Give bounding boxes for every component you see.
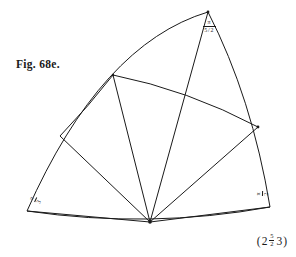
apex-fraction-numerator: π <box>207 19 210 25</box>
plate-note-fraction-numerator: 5 <box>270 233 274 240</box>
apex-denominator-denominator: 2 <box>210 27 213 33</box>
vertex-inner-right <box>257 126 260 129</box>
inner-arc <box>113 75 258 127</box>
left-corner-fraction-denominator: 3 <box>35 198 42 204</box>
figure-root: Fig. 68e. π 5 / 2 π 3 π 2 ( 2 <box>0 0 296 257</box>
plate-note-left-number: 2 <box>262 235 268 247</box>
right-corner-fraction: π 2 <box>255 191 269 196</box>
outer-arc-right <box>208 12 270 207</box>
apex-fraction-denominator: 5 / 2 <box>204 27 213 33</box>
apex-compound-fraction: π 5 / 2 <box>203 19 216 34</box>
plate-note: ( 2 5 2 3 ) <box>257 233 287 248</box>
geometric-diagram <box>0 0 296 257</box>
ray-to-right-base <box>150 207 270 222</box>
figure-caption: Fig. 68e. <box>16 58 60 70</box>
vertex-inner-left <box>112 74 114 76</box>
ray-to-inner-right <box>150 127 258 222</box>
ray-to-left-mid <box>60 136 150 222</box>
left-corner-fraction: π 3 <box>28 195 42 205</box>
apex-angle-label: π 5 / 2 <box>196 19 222 33</box>
right-corner-fraction-denominator: 2 <box>262 192 268 196</box>
vertex-fan-center <box>148 220 152 224</box>
ray-to-apex <box>150 12 208 222</box>
plate-note-open-paren: ( <box>257 235 261 247</box>
ray-to-left-base <box>27 211 150 222</box>
plate-note-right-number: 3 <box>276 235 282 247</box>
vertex-apex-top <box>207 11 210 14</box>
plate-note-fraction: 5 2 <box>269 233 274 248</box>
right-corner-angle-label: π 2 <box>252 187 272 202</box>
ray-to-inner-left <box>113 75 150 222</box>
plate-note-close-paren: ) <box>283 235 287 247</box>
plate-note-fraction-denominator: 2 <box>270 241 274 248</box>
